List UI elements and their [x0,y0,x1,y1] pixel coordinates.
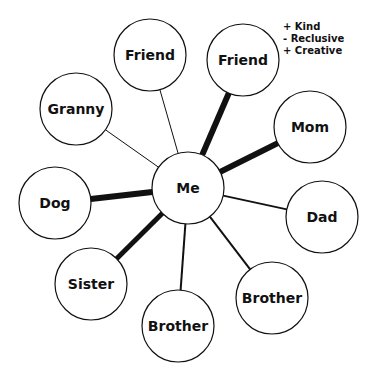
node-mom: Mom [274,91,346,163]
node-label: Brother [148,318,208,334]
node-label: Me [176,180,199,196]
edge-me-mom [220,143,278,172]
node-label: Granny [48,101,105,117]
node-brother-2: Brother [142,290,214,362]
node-friend-2: Friend [207,24,279,96]
node-label: Brother [242,290,302,306]
annotation-line: - Reclusive [283,33,344,44]
node-label: Friend [218,52,268,68]
node-dog: Dog [19,167,91,239]
annotation-line: + Kind [283,21,320,32]
nodes: FriendFriendMomDadBrotherBrotherSisterDo… [19,19,358,362]
node-dad: Dad [286,181,358,253]
node-sister: Sister [55,248,127,320]
edge-me-brother-1 [210,217,250,270]
annotation-line: + Creative [283,45,342,56]
edge-me-dog [91,192,152,199]
friend-annotation: + Kind- Reclusive+ Creative [283,21,344,56]
edge-me-dad [223,196,287,210]
edge-me-sister [117,213,163,258]
node-brother-1: Brother [236,262,308,334]
relationship-diagram: FriendFriendMomDadBrotherBrotherSisterDo… [0,0,376,382]
node-label: Dad [306,209,337,225]
node-label: Dog [39,195,70,211]
edge-me-friend-2 [202,93,229,155]
edge-me-granny [105,130,158,167]
node-friend-1: Friend [114,19,186,91]
edge-me-brother-2 [181,224,186,290]
node-label: Sister [68,276,114,292]
node-me: Me [152,152,224,224]
edge-me-friend-1 [160,90,178,154]
node-label: Friend [125,47,175,63]
node-granny: Granny [40,73,112,145]
node-label: Mom [291,119,329,135]
